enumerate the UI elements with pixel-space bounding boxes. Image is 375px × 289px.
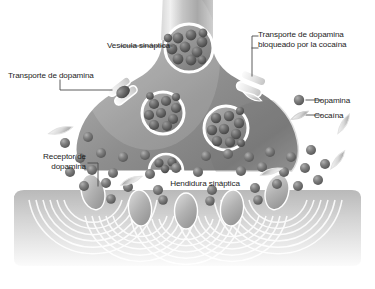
cocaine-molecule (329, 149, 347, 171)
label-transporte-bloqueado: Transporte de dopamina bloqueado por la … (258, 30, 374, 49)
label-vesicula-sinaptica: Vesícula sináptica (62, 41, 170, 51)
synaptic-vesicle (204, 106, 248, 150)
label-receptor-line1: Receptor de (10, 152, 86, 162)
synaptic-vesicle (142, 92, 184, 134)
label-hendidura-sinaptica: Hendidura sináptica (158, 179, 252, 189)
label-transporte-bloqueado-line2: bloqueado por la cocaína (258, 40, 374, 50)
legend-label-dopamina: Dopamina (314, 96, 372, 106)
legend-markers (290, 95, 309, 122)
legend-label-cocaina: Cocaína (314, 111, 372, 121)
label-receptor-de-dopamina: Receptor de dopamina (10, 152, 86, 171)
cocaine-molecule (48, 124, 74, 137)
label-transporte-bloqueado-line1: Transporte de dopamina (258, 30, 374, 40)
label-transporte-de-dopamina: Transporte de dopamina (8, 71, 118, 81)
diagram-canvas: Vesícula sináptica Transporte de dopamin… (0, 0, 375, 289)
sphere-icon (294, 95, 304, 105)
synaptic-vesicle (164, 24, 213, 72)
leader-transporte (60, 80, 112, 90)
receptor (175, 193, 198, 229)
label-receptor-line2: dopamina (10, 162, 86, 172)
